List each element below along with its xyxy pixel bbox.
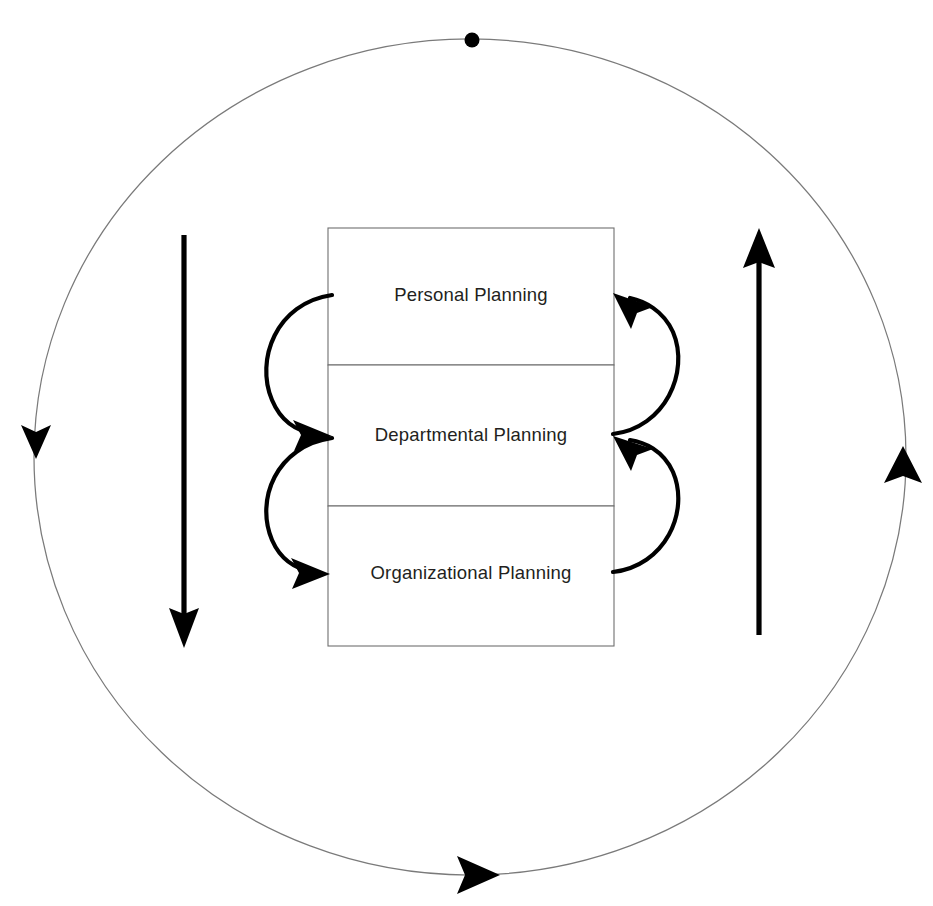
planning-cycle-diagram: Personal Planning Departmental Planning … xyxy=(0,0,933,906)
curve-departmental-to-organizational-path xyxy=(266,438,332,572)
curve-departmental-to-organizational-head-icon xyxy=(291,558,330,589)
cycle-start-dot xyxy=(465,33,480,48)
cycle-arrow-right-icon xyxy=(884,446,922,483)
curve-personal-to-departmental-path xyxy=(266,295,332,434)
left-downward-arrow-head-icon xyxy=(169,608,199,648)
curve-departmental-to-personal-path xyxy=(613,298,678,434)
right-upward-arrow-head-icon xyxy=(743,228,775,268)
tier-label-organizational-planning: Organizational Planning xyxy=(370,562,571,583)
diagram-canvas: Personal Planning Departmental Planning … xyxy=(0,0,933,906)
curve-personal-to-departmental-head-icon xyxy=(293,420,332,451)
curve-organizational-to-departmental-path xyxy=(613,440,678,572)
tier-label-personal-planning: Personal Planning xyxy=(394,284,548,305)
tier-label-departmental-planning: Departmental Planning xyxy=(375,424,567,445)
cycle-arrow-left-icon xyxy=(21,425,51,459)
